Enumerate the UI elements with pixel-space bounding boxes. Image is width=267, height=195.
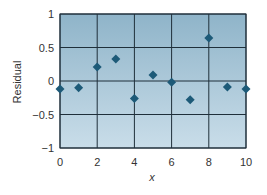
y-tick-label: −0.5 xyxy=(32,109,54,121)
x-tick-label: 8 xyxy=(206,156,212,168)
y-axis-ticks: 10.50−0.5−1 xyxy=(32,8,54,154)
x-tick-label: 10 xyxy=(240,156,252,168)
residual-scatter-chart: 10.50−0.5−1 0246810 Residual x xyxy=(0,0,267,195)
y-tick-label: 0 xyxy=(48,75,54,87)
x-tick-label: 2 xyxy=(94,156,100,168)
x-tick-label: 4 xyxy=(131,156,137,168)
y-axis-label: Residual xyxy=(11,61,23,104)
y-tick-label: 1 xyxy=(48,8,54,20)
x-axis-ticks: 0246810 xyxy=(57,156,252,168)
x-tick-label: 6 xyxy=(169,156,175,168)
x-axis-label: x xyxy=(148,171,155,183)
y-tick-label: −1 xyxy=(41,142,54,154)
x-tick-label: 0 xyxy=(57,156,63,168)
y-tick-label: 0.5 xyxy=(39,42,54,54)
